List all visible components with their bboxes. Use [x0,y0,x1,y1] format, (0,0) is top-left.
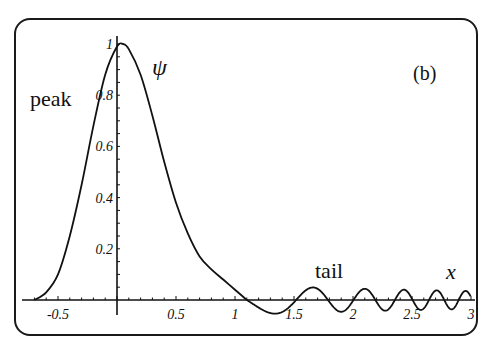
panel-label: (b) [413,62,436,85]
x-tick-label: 1 [232,307,239,322]
tail-label: tail [315,258,343,283]
psi-label: ψ [152,54,168,80]
x-tick-label: 3 [467,307,475,322]
x-label: x [445,259,456,284]
y-tick-labels: 0.20.40.60.81 [96,37,114,257]
y-tick-label: 0.2 [96,242,114,257]
chart-svg: -0.50.511.522.53 0.20.40.60.81 peak ψ (b… [0,0,493,350]
y-tick-label: 1 [106,37,113,52]
y-tick-label: 0.4 [96,191,114,206]
x-tick-label: 2 [350,307,357,322]
psi-curve [34,43,470,313]
x-tick-label: -0.5 [47,307,69,322]
x-tick-label: 0.5 [167,307,185,322]
y-tick-label: 0.6 [96,139,114,154]
peak-label: peak [30,86,72,111]
